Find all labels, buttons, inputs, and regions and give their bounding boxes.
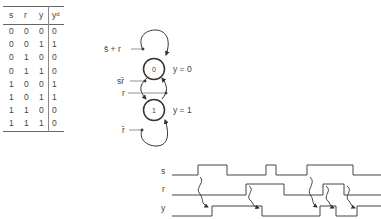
zero-to-one-label: sr̄ <box>117 76 124 86</box>
causal-arrow <box>309 177 317 207</box>
state-1-output: y = 1 <box>173 105 192 115</box>
state-0-output: y = 0 <box>173 64 192 74</box>
causal-arrow <box>347 186 355 208</box>
self-loop-1 <box>141 120 167 146</box>
state-diagram-labels: 0 1 y = 0 y = 1 s̄ + r sr̄ r r̄ <box>104 44 192 135</box>
signal-y-label: y <box>161 203 166 213</box>
self-loop-0 <box>141 30 168 55</box>
state-0-label: 0 <box>152 66 156 73</box>
waveform-s <box>172 165 381 175</box>
timing-diagram: s r y <box>161 165 381 216</box>
one-to-zero-label: r <box>122 88 125 98</box>
causal-arrow <box>249 186 259 208</box>
diagram-canvas: 0 1 y = 0 y = 1 s̄ + r sr̄ r r̄ s r y <box>0 0 381 219</box>
signal-r-label: r <box>162 184 165 194</box>
transition-1-to-0 <box>162 78 167 99</box>
causal-arrow <box>198 177 208 207</box>
signal-s-label: s <box>161 166 165 176</box>
waveform-y <box>172 206 381 216</box>
state-diagram <box>128 30 168 146</box>
state-1-label: 1 <box>152 107 156 114</box>
self-loop-1-label: r̄ <box>121 125 125 135</box>
self-loop-0-label: s̄ + r <box>104 44 121 54</box>
causal-arrow <box>326 186 334 208</box>
